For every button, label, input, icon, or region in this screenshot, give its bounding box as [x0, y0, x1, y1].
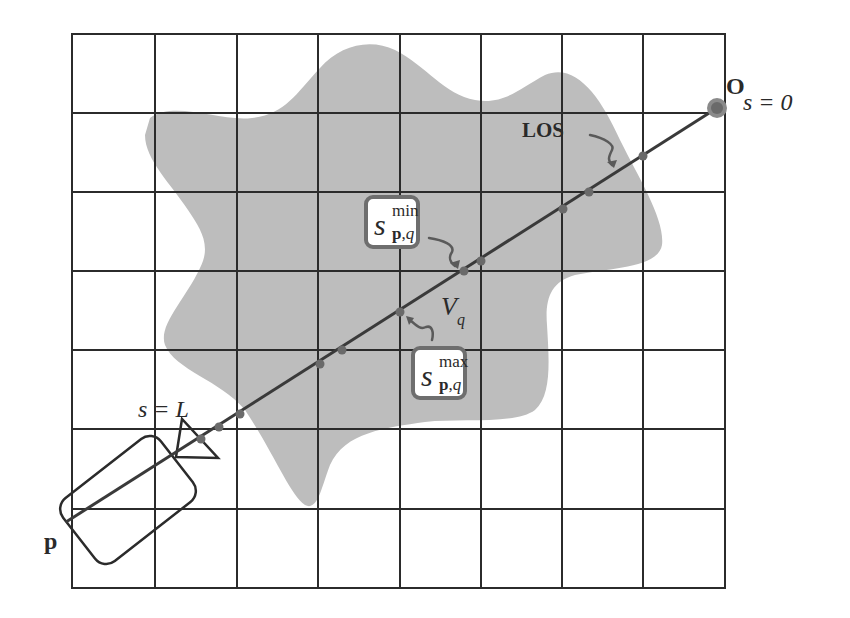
- s-min-superscript: min: [392, 201, 418, 221]
- voxel-letter: V: [441, 292, 457, 321]
- voxel-label: Vq: [441, 292, 465, 322]
- s-max-callout: s max p,q: [411, 346, 467, 400]
- s-min-callout: s min p,q: [364, 195, 420, 249]
- s-max-superscript: max: [439, 352, 468, 372]
- s-max-base: s: [421, 359, 433, 393]
- s-max-subscript: p,q: [439, 375, 461, 395]
- origin-param-label: s = 0: [743, 89, 793, 116]
- pixel-label: p: [44, 528, 57, 555]
- s-min-base: s: [374, 208, 386, 242]
- s-min-subscript: p,q: [392, 224, 414, 244]
- los-voxel-diagram: O s = 0 LOS s = L p Vq s min p,q s max p…: [0, 0, 850, 618]
- origin-label: O: [726, 73, 745, 100]
- origin-point-icon: [707, 98, 727, 118]
- end-param-label: s = L: [138, 396, 189, 423]
- voxel-subscript: q: [457, 311, 465, 328]
- los-label: LOS: [522, 118, 564, 143]
- diagram-canvas: [0, 0, 850, 618]
